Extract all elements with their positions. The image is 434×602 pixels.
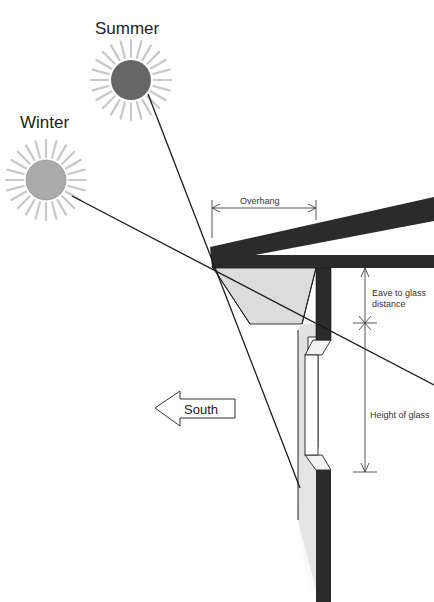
wall-lower xyxy=(316,470,331,602)
wall-upper xyxy=(316,268,331,340)
height-of-glass-label: Height of glass xyxy=(370,410,430,420)
ceiling-joist xyxy=(212,255,434,268)
passive-solar-overhang-diagram: Summer Winter Overhang xyxy=(0,0,434,602)
building-structure xyxy=(210,197,434,602)
summer-sun-icon xyxy=(91,40,171,120)
glass-pane xyxy=(305,355,318,455)
overhang-label: Overhang xyxy=(240,196,280,206)
south-label: South xyxy=(184,402,218,417)
summer-label: Summer xyxy=(95,19,160,38)
eave-to-glass-label-line2: distance xyxy=(372,299,406,309)
winter-label: Winter xyxy=(20,113,69,132)
winter-sun-icon xyxy=(6,140,86,220)
eave-to-glass-label-line1: Eave to glass xyxy=(372,288,427,298)
